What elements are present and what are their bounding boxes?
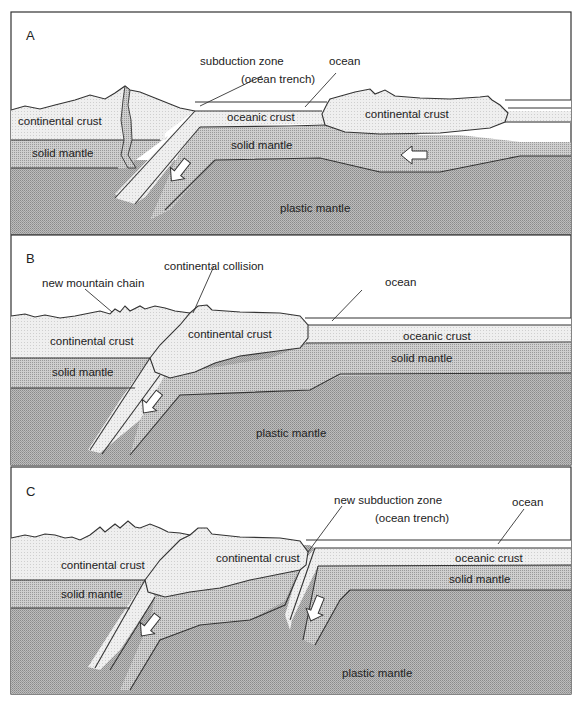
label-solid-mantle-left-c: solid mantle — [61, 588, 122, 600]
label-solid-mantle-left-b: solid mantle — [52, 366, 113, 378]
label-ocean: ocean — [329, 55, 360, 67]
label-solid-mantle-right-b: solid mantle — [391, 352, 452, 364]
panel-b: B new mountain chain continental collisi… — [11, 235, 571, 465]
label-ocean-trench: (ocean trench) — [241, 73, 315, 85]
label-ocean-c: ocean — [512, 496, 543, 508]
label-oceanic-crust-b: oceanic crust — [403, 330, 472, 342]
label-continental-crust-left-c: continental crust — [61, 559, 146, 571]
label-continental-collision: continental collision — [164, 260, 264, 272]
panel-c: C new subduction zone (ocean trench) oce… — [11, 467, 571, 694]
label-oceanic-crust: oceanic crust — [227, 111, 296, 123]
label-plastic-mantle-b: plastic mantle — [256, 427, 326, 439]
label-continental-crust-left: continental crust — [18, 115, 103, 127]
label-solid-mantle-right: solid mantle — [231, 139, 292, 151]
label-continental-crust-left-b: continental crust — [50, 335, 135, 347]
label-new-subduction-zone: new subduction zone — [334, 494, 442, 506]
label-ocean-b: ocean — [385, 276, 416, 288]
label-solid-mantle-right-c: solid mantle — [449, 573, 510, 585]
label-continental-crust-right: continental crust — [365, 108, 450, 120]
label-solid-mantle-left: solid mantle — [32, 147, 93, 159]
label-plastic-mantle: plastic mantle — [280, 202, 350, 214]
ocean-c — [300, 540, 571, 548]
tectonics-diagram: A subduction zone (ocean trench) ocean c… — [0, 0, 582, 705]
label-continental-crust-center-c: continental crust — [216, 552, 301, 564]
label-new-mountain-chain: new mountain chain — [42, 277, 144, 289]
ocean-b — [305, 318, 571, 325]
panel-letter-c: C — [26, 484, 35, 499]
label-continental-crust-center-b: continental crust — [188, 328, 273, 340]
label-subduction-zone: subduction zone — [200, 55, 284, 67]
panel-a: A subduction zone (ocean trench) ocean c… — [11, 12, 571, 234]
label-ocean-trench-c: (ocean trench) — [375, 512, 449, 524]
label-oceanic-crust-c: oceanic crust — [455, 552, 524, 564]
panel-letter-b: B — [26, 251, 35, 266]
label-plastic-mantle-c: plastic mantle — [342, 667, 412, 679]
panel-letter-a: A — [26, 28, 35, 43]
